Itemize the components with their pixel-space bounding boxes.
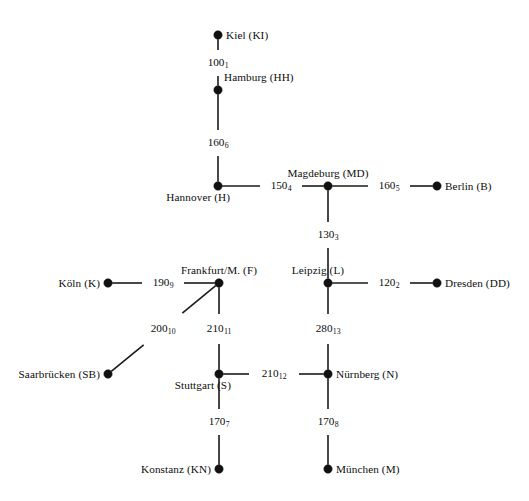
edge-weight-value: 170 <box>318 415 335 427</box>
node-dot-S[interactable] <box>215 370 223 378</box>
edge-SB-F-a <box>111 345 143 371</box>
node-dot-KI[interactable] <box>214 31 222 39</box>
edge-index-subscript: 2 <box>396 281 400 290</box>
node-label-B: Berlin (B) <box>445 180 492 192</box>
node-label-MD: Magdeburg (MD) <box>287 167 368 179</box>
edge-weight-label-KI-HH: 1001 <box>206 56 231 70</box>
node-label-N: Nürnberg (N) <box>336 368 398 380</box>
edge-index-subscript: 7 <box>226 420 230 429</box>
node-label-K: Köln (K) <box>58 277 100 289</box>
node-dot-SB[interactable] <box>104 370 112 378</box>
edge-weight-label-H-MD: 1504 <box>269 179 294 193</box>
edge-weight-label-S-KN: 1707 <box>207 415 232 429</box>
edge-weight-value: 280 <box>316 322 333 334</box>
node-dot-H[interactable] <box>214 182 222 190</box>
edge-weight-label-L-DD: 1202 <box>377 276 402 290</box>
edge-weight-value: 150 <box>271 179 288 191</box>
edge-weight-value: 100 <box>208 56 225 68</box>
node-dot-B[interactable] <box>433 182 441 190</box>
nodes-group <box>104 31 441 473</box>
edge-index-subscript: 12 <box>279 372 287 381</box>
edge-SB-F-b <box>182 286 215 313</box>
edge-weight-label-L-N: 28013 <box>314 322 343 336</box>
node-dot-L[interactable] <box>324 279 332 287</box>
edge-weight-value: 120 <box>379 276 396 288</box>
node-dot-K[interactable] <box>104 279 112 287</box>
edge-weight-label-MD-B: 1605 <box>377 179 402 193</box>
node-label-KI: Kiel (KI) <box>226 29 268 41</box>
node-label-L: Leipzig (L) <box>292 264 344 276</box>
edge-index-subscript: 4 <box>288 184 292 193</box>
edges-group <box>111 39 433 465</box>
edge-weight-value: 170 <box>209 415 226 427</box>
node-dot-HH[interactable] <box>214 86 222 94</box>
edge-weight-value: 130 <box>318 228 335 240</box>
node-dot-KN[interactable] <box>215 465 223 473</box>
node-label-SB: Saarbrücken (SB) <box>19 368 100 380</box>
edge-weight-value: 160 <box>379 179 396 191</box>
edge-weight-label-SB-F: 20010 <box>149 322 178 336</box>
edge-weight-label-HH-H: 1606 <box>206 136 231 150</box>
edge-index-subscript: 8 <box>335 420 339 429</box>
edge-index-subscript: 3 <box>335 233 339 242</box>
node-label-M: München (M) <box>336 463 400 475</box>
node-label-HH: Hamburg (HH) <box>224 71 294 83</box>
edge-weight-value: 210 <box>262 367 279 379</box>
edge-index-subscript: 13 <box>333 327 341 336</box>
node-label-H: Hannover (H) <box>166 191 230 203</box>
edge-weight-label-N-M: 1708 <box>316 415 341 429</box>
edge-index-subscript: 9 <box>170 281 174 290</box>
graph-canvas: 1001160615041605130319091202200102101128… <box>0 0 529 501</box>
node-dot-M[interactable] <box>324 465 332 473</box>
edge-weight-value: 160 <box>208 136 225 148</box>
node-dot-DD[interactable] <box>433 279 441 287</box>
node-label-S: Stuttgart (S) <box>175 379 231 391</box>
edge-weight-label-K-F: 1909 <box>151 276 176 290</box>
node-label-DD: Dresden (DD) <box>445 277 510 289</box>
edge-weight-label-F-S: 21011 <box>205 322 233 336</box>
node-dot-N[interactable] <box>324 370 332 378</box>
node-label-F: Frankfurt/M. (F) <box>181 264 257 276</box>
edge-index-subscript: 1 <box>225 61 229 70</box>
edge-weight-value: 200 <box>151 322 168 334</box>
edge-index-subscript: 6 <box>225 141 229 150</box>
edge-weight-value: 190 <box>153 276 170 288</box>
edge-weight-value: 210 <box>207 322 224 334</box>
edge-index-subscript: 5 <box>396 184 400 193</box>
edge-weight-label-MD-L: 1303 <box>316 228 341 242</box>
edge-index-subscript: 11 <box>224 327 232 336</box>
node-dot-F[interactable] <box>215 279 223 287</box>
edge-weight-label-S-N: 21012 <box>260 367 289 381</box>
node-label-KN: Konstanz (KN) <box>141 463 211 475</box>
edge-index-subscript: 10 <box>168 327 176 336</box>
node-dot-MD[interactable] <box>324 182 332 190</box>
